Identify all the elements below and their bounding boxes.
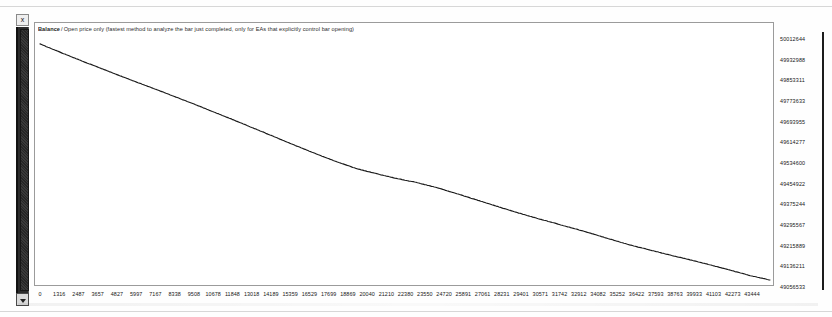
x-axis-tick-label: 34082 (590, 290, 606, 298)
x-axis: 0131624873657482759977167833895081067811… (34, 290, 778, 302)
x-axis-tick-label: 20040 (359, 290, 375, 298)
scan-artifact-band (18, 303, 818, 306)
chart-subtitle: Open price only (fastest method to analy… (64, 26, 354, 32)
y-axis-tick-label: 49534600 (780, 160, 805, 167)
x-axis-tick-label: 21210 (379, 290, 395, 298)
x-axis-tick-label: 1316 (53, 290, 65, 298)
y-axis-tick-label: 49693955 (780, 119, 805, 126)
x-axis-tick-label: 17699 (321, 290, 337, 298)
x-axis-tick-label: 41103 (706, 290, 721, 298)
x-axis-tick-label: 35252 (610, 290, 626, 298)
x-axis-tick-label: 38763 (667, 290, 683, 298)
x-axis-tick-label: 18869 (340, 290, 356, 298)
page-edge-bottom (0, 311, 832, 312)
y-axis-tick-label: 49454922 (780, 181, 805, 188)
x-axis-tick-label: 39933 (687, 290, 703, 298)
x-axis-tick-label: 32912 (571, 290, 587, 298)
x-axis-tick-label: 16529 (302, 290, 318, 298)
y-axis-tick-label: 49215889 (780, 243, 805, 250)
y-axis-tick-label: 49375244 (780, 201, 805, 208)
x-axis-tick-label: 0 (38, 290, 41, 298)
x-axis-tick-label: 42273 (725, 290, 741, 298)
y-axis-tick-label: 49136211 (780, 263, 805, 270)
x-axis-tick-label: 5997 (130, 290, 142, 298)
y-axis-tick-label: 49295567 (780, 222, 805, 229)
x-axis-tick-label: 7167 (149, 290, 161, 298)
y-axis-tick-label: 49853311 (780, 77, 805, 84)
x-axis-tick-label: 22380 (398, 290, 414, 298)
left-scrollbar-rail: x (16, 14, 32, 306)
close-icon[interactable]: x (16, 14, 29, 26)
x-axis-tick-label: 15359 (282, 290, 298, 298)
x-axis-tick-label: 31742 (552, 290, 568, 298)
page-edge-top (0, 6, 832, 7)
chart-series-name: Balance (38, 26, 60, 32)
vertical-scrollbar-track[interactable] (16, 27, 29, 293)
x-axis-tick-label: 43444 (744, 290, 760, 298)
y-axis-rule (822, 32, 824, 290)
chart-title: Balance/Open price only (fastest method … (38, 25, 768, 35)
y-axis-tick-label: 49932988 (780, 57, 805, 64)
x-axis-tick-label: 27061 (475, 290, 491, 298)
x-axis-tick-label: 9508 (188, 290, 200, 298)
x-axis-tick-label: 14189 (263, 290, 279, 298)
plot-area (36, 36, 772, 284)
balance-line (40, 44, 770, 280)
x-axis-tick-label: 24720 (436, 290, 452, 298)
y-axis: 5001264449932988498533114977363349693955… (778, 22, 826, 292)
vertical-scrollbar-thumb[interactable] (20, 29, 29, 291)
x-axis-tick-label: 37593 (648, 290, 664, 298)
x-axis-tick-label: 8338 (168, 290, 180, 298)
x-axis-tick-label: 4827 (111, 290, 123, 298)
x-axis-tick-label: 28231 (494, 290, 510, 298)
y-axis-tick-label: 49056533 (780, 284, 805, 291)
chart-window: Balance/Open price only (fastest method … (34, 22, 774, 286)
x-axis-tick-label: 2487 (72, 290, 84, 298)
y-axis-tick-label: 49773633 (780, 98, 805, 105)
x-axis-tick-label: 30571 (533, 290, 549, 298)
x-axis-tick-label: 3657 (92, 290, 104, 298)
y-axis-tick-label: 49614277 (780, 139, 805, 146)
x-axis-tick-label: 11848 (225, 290, 240, 298)
x-axis-tick-label: 10678 (205, 290, 221, 298)
x-axis-tick-label: 36422 (629, 290, 645, 298)
x-axis-tick-label: 23550 (417, 290, 433, 298)
y-axis-tick-label: 50012644 (780, 36, 805, 43)
x-axis-tick-label: 13018 (244, 290, 260, 298)
strategy-tester-report-chart: x Balance/Open price only (fastest metho… (0, 0, 832, 317)
x-axis-tick-label: 25891 (456, 290, 472, 298)
x-axis-tick-label: 29401 (513, 290, 529, 298)
balance-line-chart (36, 36, 772, 284)
